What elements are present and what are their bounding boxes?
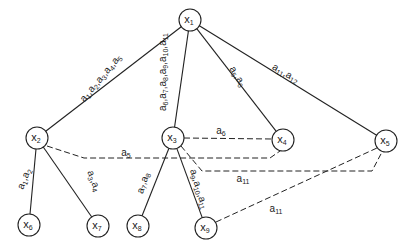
dashed-edge-x3-x4 xyxy=(184,138,272,139)
edge-label-x1-x2: a1,a2,a3,a4,a5 xyxy=(77,52,124,105)
edge-x2-x6 xyxy=(30,149,36,214)
edge-x1-x3 xyxy=(175,31,189,127)
dashed-edge-label-x9-x5: a11 xyxy=(270,203,283,215)
edge-label-x2-x7: a3,a4 xyxy=(84,169,103,194)
node-x5: x5 xyxy=(375,130,397,152)
dashed-edge-x2-x4 xyxy=(47,146,280,158)
edge-label-x3-x8: a7,a8 xyxy=(134,171,152,195)
node-x9: x9 xyxy=(195,217,217,239)
diagram-canvas: a1,a2,a3,a4,a5a6,a7,a8,a9,a10,a11a5,a6a1… xyxy=(0,0,418,252)
node-x3: x3 xyxy=(162,127,184,149)
node-x2: x2 xyxy=(26,127,48,149)
node-x4: x4 xyxy=(272,129,294,151)
dashed-edge-label-x3-x4: a6 xyxy=(216,125,226,137)
dashed-edge-label-x2-x4: a5 xyxy=(121,147,131,159)
node-x8: x8 xyxy=(127,215,149,237)
edge-label-x3-x9: a9,a10,a11 xyxy=(187,168,211,211)
edge-label-x1-x4: a5,a6 xyxy=(227,64,249,89)
edge-label-x2-x6: a1,a2 xyxy=(15,166,34,191)
solid-edges xyxy=(30,26,377,218)
node-x7: x7 xyxy=(87,215,109,237)
node-x6: x6 xyxy=(18,214,40,236)
dashed-edge-x9-x5 xyxy=(216,148,377,222)
dashed-edge-label-x3-x5: a11 xyxy=(237,173,250,185)
edge-label-x1-x3: a6,a7,a8,a9,a10,a11 xyxy=(157,33,169,111)
edge-label-x1-x5: a11,a12 xyxy=(270,61,301,86)
edge-labels: a1,a2,a3,a4,a5a6,a7,a8,a9,a10,a11a5,a6a1… xyxy=(15,33,302,215)
tree-diagram: a1,a2,a3,a4,a5a6,a7,a8,a9,a10,a11a5,a6a1… xyxy=(0,0,418,252)
node-x1: x1 xyxy=(179,9,201,31)
nodes: x1x2x3x4x5x6x7x8x9 xyxy=(18,9,397,239)
